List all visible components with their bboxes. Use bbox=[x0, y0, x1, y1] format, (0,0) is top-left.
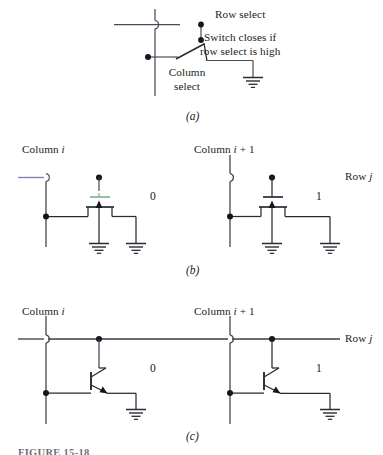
column-i1-suffix-b: + 1 bbox=[237, 143, 255, 155]
junction-dot-column-a bbox=[145, 54, 151, 60]
row-j-prefix-c: Row bbox=[345, 332, 369, 344]
column-i-prefix-c: Column bbox=[22, 305, 62, 317]
column-i1-label-c: Column i + 1 bbox=[194, 305, 255, 318]
substrate-arrow-b-left bbox=[96, 201, 103, 209]
row-select-label: Row select bbox=[215, 8, 265, 21]
cell-c-right bbox=[227, 336, 340, 419]
wire-hop-column-i1-b bbox=[230, 174, 233, 182]
row-j-label-b: Row j bbox=[345, 170, 373, 183]
figure-container: Row select Switch closes if row select i… bbox=[0, 0, 383, 455]
column-i-prefix-b: Column bbox=[22, 143, 62, 155]
cell-value-c-left: 0 bbox=[150, 362, 156, 374]
panel-b-circuit bbox=[18, 155, 340, 253]
ground-symbol-b-left-1 bbox=[89, 244, 109, 254]
panel-c-circuit bbox=[18, 316, 340, 424]
switch-note-line1: Switch closes if bbox=[204, 31, 276, 44]
cell-value-b-right: 1 bbox=[316, 190, 322, 202]
column-i-index-c: i bbox=[62, 305, 65, 317]
ground-symbol-c-right bbox=[320, 410, 340, 420]
ground-symbol-b-right-2 bbox=[320, 244, 340, 254]
junction-dot-column-b-left bbox=[43, 214, 49, 220]
junction-dot-column-b-right bbox=[227, 214, 233, 220]
switch-note-line2: row select is high bbox=[200, 45, 280, 58]
ground-symbol-b-left-2 bbox=[126, 244, 146, 254]
row-j-index-b: j bbox=[369, 170, 372, 182]
row-j-index-c: j bbox=[369, 332, 372, 344]
column-i-index-b: i bbox=[62, 143, 65, 155]
figure-caption: FIGURE 15-18 bbox=[18, 447, 90, 455]
cell-b-left bbox=[43, 175, 146, 254]
junction-dot-column-c-right bbox=[227, 390, 233, 396]
column-i-label-c: Column i bbox=[22, 305, 65, 318]
panel-tag-a: (a) bbox=[186, 110, 199, 122]
ground-symbol-b-right-1 bbox=[262, 244, 282, 254]
row-j-prefix-b: Row bbox=[345, 170, 369, 182]
column-i1-label-b: Column i + 1 bbox=[194, 143, 255, 156]
column-i1-prefix-b: Column bbox=[194, 143, 234, 155]
cell-value-c-right: 1 bbox=[316, 362, 322, 374]
column-select-line1: Column bbox=[160, 66, 214, 79]
ground-symbol-a bbox=[243, 78, 263, 88]
junction-dot-column-c-left bbox=[43, 390, 49, 396]
column-i1-suffix-c: + 1 bbox=[237, 305, 255, 317]
cell-c-left bbox=[43, 336, 146, 419]
collector-diagonal-c-right bbox=[264, 368, 279, 377]
column-i-label-b: Column i bbox=[22, 143, 65, 156]
wire-hop-column-i-c bbox=[46, 335, 49, 343]
wire-hop-column-i1-c bbox=[230, 335, 233, 343]
junction-dot-row-a bbox=[198, 22, 204, 28]
collector-diagonal-c-left bbox=[91, 368, 106, 377]
cell-value-b-left: 0 bbox=[150, 190, 156, 202]
column-i1-prefix-c: Column bbox=[194, 305, 234, 317]
panel-tag-b: (b) bbox=[186, 264, 199, 276]
cell-b-right bbox=[227, 175, 340, 254]
wire-hop-column-i-b bbox=[46, 174, 49, 182]
ground-symbol-c-left bbox=[126, 410, 146, 420]
row-j-label-c: Row j bbox=[345, 332, 373, 345]
column-select-line2: select bbox=[160, 80, 214, 93]
panel-tag-c: (c) bbox=[186, 430, 199, 442]
substrate-arrow-b-right bbox=[269, 201, 276, 209]
